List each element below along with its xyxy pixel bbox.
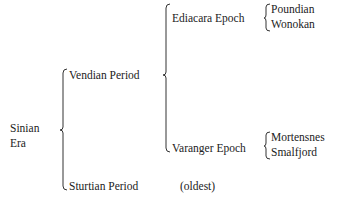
era-brace: [60, 69, 67, 190]
oldest-note: (oldest): [180, 180, 215, 193]
vendian-period-label: Vendian Period: [69, 69, 140, 82]
stage-mortensnes: Mortensnes: [271, 131, 325, 144]
stage-smalfjord: Smalfjord: [271, 146, 317, 159]
ediacara-brace: [264, 4, 270, 31]
varanger-epoch-label: Varanger Epoch: [172, 142, 246, 155]
era-label-line1: Sinian: [10, 122, 39, 135]
varanger-brace: [264, 132, 270, 159]
era-label-line2: Era: [10, 137, 26, 150]
vendian-brace: [163, 4, 170, 152]
sturtian-period-label: Sturtian Period: [69, 180, 138, 193]
stage-wonokan: Wonokan: [271, 18, 315, 31]
stage-poundian: Poundian: [271, 3, 314, 16]
ediacara-epoch-label: Ediacara Epoch: [172, 12, 244, 25]
